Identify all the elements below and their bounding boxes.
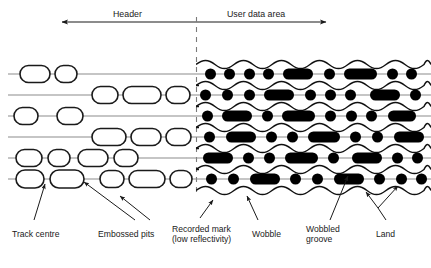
land-dot: [412, 153, 423, 164]
recorded-mark: [226, 132, 256, 143]
callout-wobbled-groove-line-1: Wobbled: [306, 224, 340, 234]
embossed-pit: [16, 170, 44, 188]
land-dot: [204, 132, 215, 143]
wobbled-groove-wall: [196, 186, 431, 194]
land-dot: [200, 90, 211, 101]
land-dot: [416, 174, 427, 185]
land-dot: [205, 69, 216, 80]
embossed-pit: [48, 150, 70, 167]
recorded-mark: [352, 153, 382, 164]
land-dot: [266, 132, 277, 143]
land-dot: [206, 174, 217, 185]
callout-recorded-mark-line-1: Recorded mark: [172, 224, 231, 234]
recorded-mark: [264, 90, 294, 101]
callout-recorded-mark-line-2: (low reflectivity): [172, 234, 231, 244]
land-dot: [410, 90, 421, 101]
embossed-pit: [78, 150, 108, 167]
land-dot: [263, 69, 274, 80]
wobbled-groove-wall: [196, 81, 431, 89]
land-dot: [392, 153, 403, 164]
embossed-pit-layer: [14, 66, 192, 189]
callout-wobbled-groove-line-2: groove: [306, 234, 332, 244]
embossed-pit: [166, 87, 190, 104]
land-dot: [222, 90, 233, 101]
recorded-mark: [394, 132, 424, 143]
wobbled-groove-wall: [196, 60, 431, 68]
land-dot: [224, 69, 235, 80]
land-dot: [324, 69, 335, 80]
wobbled-groove-wall: [196, 144, 431, 152]
header-label-user-data-area: User data area: [227, 9, 285, 19]
figure-canvas: Header User data area Track centre Embos…: [0, 0, 431, 268]
land-dot: [290, 174, 301, 185]
land-dot: [325, 111, 336, 122]
embossed-pit: [114, 150, 138, 167]
land-dot: [244, 69, 255, 80]
embossed-pit: [50, 170, 84, 188]
callout-recorded-mark: Recorded mark(low reflectivity): [172, 224, 231, 244]
embossed-pit: [20, 66, 50, 83]
embossed-pit: [92, 87, 118, 104]
embossed-pit: [166, 129, 191, 146]
header-label-header: Header: [113, 9, 142, 19]
land-dot: [345, 90, 356, 101]
land-dot: [325, 90, 336, 101]
recorded-mark: [222, 111, 252, 122]
land-dot: [350, 132, 361, 143]
land-dot: [346, 111, 357, 122]
embossed-pit: [129, 171, 165, 188]
land-dot: [202, 111, 213, 122]
land-dot: [372, 132, 383, 143]
land-dot: [396, 174, 407, 185]
callout-track-centre-line-1: Track centre: [12, 229, 59, 239]
land-dot: [228, 174, 239, 185]
land-dot: [264, 153, 275, 164]
embossed-pit: [100, 171, 124, 188]
wobbled-groove-wall: [196, 165, 431, 173]
recorded-mark: [250, 174, 280, 185]
recorded-mark: [285, 153, 318, 164]
embossed-pit: [170, 171, 192, 188]
callout-embossed-pits: Embossed pits: [98, 229, 154, 239]
recorded-mark: [283, 69, 313, 80]
land-dot: [366, 111, 377, 122]
embossed-pit: [131, 129, 161, 146]
land-dot: [328, 153, 339, 164]
wobbled-groove-wall: [196, 102, 431, 110]
recorded-mark: [344, 69, 377, 80]
callout-wobbled-groove: Wobbledgroove: [306, 224, 340, 244]
land-dot: [243, 153, 254, 164]
recorded-mark: [370, 90, 400, 101]
callout-land-line-1: Land: [376, 229, 395, 239]
recorded-mark: [282, 111, 315, 122]
land-dot: [305, 90, 316, 101]
callout-wobble: Wobble: [252, 229, 281, 239]
land-dot: [287, 132, 298, 143]
callout-embossed-pits-line-1: Embossed pits: [98, 229, 154, 239]
callout-land: Land: [376, 229, 395, 239]
callout-track-centre: Track centre: [12, 229, 59, 239]
land-dot: [374, 174, 385, 185]
embossed-pit: [55, 66, 77, 83]
embossed-pit: [57, 108, 83, 125]
recorded-mark: [203, 153, 233, 164]
recorded-mark: [334, 174, 364, 185]
embossed-pit: [92, 129, 126, 146]
embossed-pit: [16, 150, 42, 167]
recorded-mark: [308, 132, 340, 143]
land-dot: [406, 69, 417, 80]
embossed-pit: [123, 87, 161, 104]
land-dot: [244, 90, 255, 101]
callout-wobble-line-1: Wobble: [252, 229, 281, 239]
embossed-pit: [14, 108, 38, 125]
land-dot: [312, 174, 323, 185]
land-dot: [387, 69, 398, 80]
land-dot: [262, 111, 273, 122]
recorded-mark: [388, 111, 416, 122]
wobbled-groove-wall: [196, 123, 431, 131]
